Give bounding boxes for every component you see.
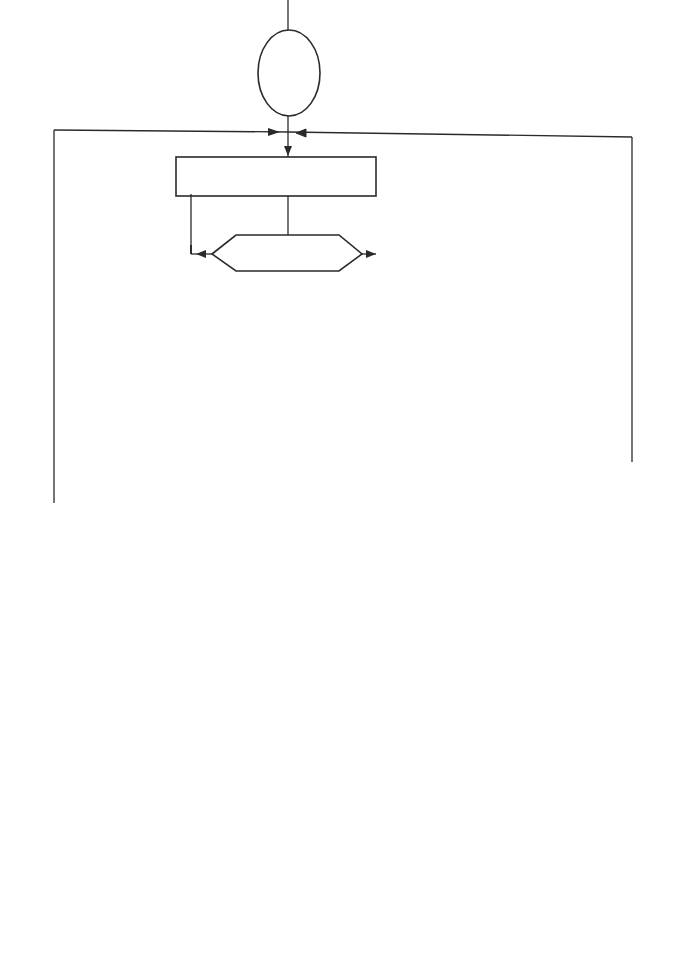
- select-next-member-box: [176, 157, 376, 196]
- test-type-decision-1: [212, 235, 362, 271]
- flowchart: [0, 0, 683, 973]
- enter-terminal: [258, 30, 320, 116]
